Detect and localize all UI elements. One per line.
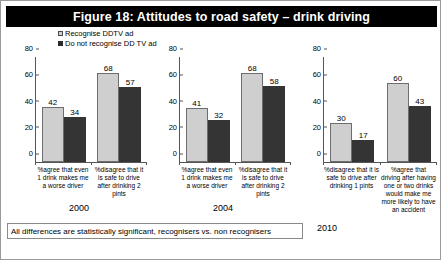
bar-value-label: 58 xyxy=(270,77,279,86)
plot-area: 80 60 40 20 0 41 32 xyxy=(179,57,291,163)
bar-value-label: 34 xyxy=(70,108,79,117)
bar-value-label: 68 xyxy=(104,64,113,73)
bar-value-label: 57 xyxy=(126,78,135,87)
category-label: %agree that even 1 drink makes me a wors… xyxy=(179,166,235,198)
panel-year-2000: 2000 xyxy=(9,203,149,213)
figure-footnote: All differences are statistically signif… xyxy=(7,223,303,239)
bar-group: 42 34 xyxy=(36,57,92,162)
x-axis-labels: %agree that even 1 drink makes me a wors… xyxy=(35,166,147,198)
figure-container: Figure 18: Attitudes to road safety – dr… xyxy=(0,0,441,260)
bar-not-recognise: 32 xyxy=(208,120,230,162)
bar-recognise: 60 xyxy=(387,83,409,162)
bar-value-label: 42 xyxy=(48,98,57,107)
y-axis-tick: 0 xyxy=(317,149,324,158)
chart-panel-2010: 80 60 40 20 0 30 17 xyxy=(297,51,439,201)
light-square-swatch-icon xyxy=(58,31,63,36)
x-axis-labels: %agree that even 1 drink makes me a wors… xyxy=(179,166,291,198)
legend-item-recognise: Recognise DDTV ad xyxy=(58,29,157,38)
bar-not-recognise: 43 xyxy=(409,106,431,162)
figure-title-bar: Figure 18: Attitudes to road safety – dr… xyxy=(6,6,437,27)
panel-year-2004: 2004 xyxy=(153,203,293,213)
y-axis-tick: 0 xyxy=(29,149,36,158)
bar-recognise: 30 xyxy=(330,123,352,162)
y-axis-tick: 80 xyxy=(169,44,180,53)
bar-group: 68 57 xyxy=(92,57,148,162)
bar-groups: 41 32 68 58 xyxy=(180,57,291,162)
bar-recognise: 68 xyxy=(97,73,119,162)
panel-year-2010: 2010 xyxy=(297,223,357,233)
footnote-text: All differences are statistically signif… xyxy=(8,227,271,236)
bar-value-label: 32 xyxy=(214,111,223,120)
bar-group: 41 32 xyxy=(180,57,236,162)
y-axis-tick: 20 xyxy=(25,122,36,131)
x-axis-ticks xyxy=(323,162,437,165)
page-title: Figure 18: Attitudes to road safety – dr… xyxy=(73,10,370,24)
y-axis-tick: 60 xyxy=(313,70,324,79)
bar-group: 30 17 xyxy=(324,57,381,162)
y-axis-tick: 40 xyxy=(169,96,180,105)
category-label: %agree that even 1 drink makes me a wors… xyxy=(35,166,91,198)
x-axis-ticks xyxy=(35,162,147,165)
bar-value-label: 60 xyxy=(393,74,402,83)
bar-not-recognise: 58 xyxy=(263,86,285,162)
legend-item-label: Do not recognise DD TV ad xyxy=(65,39,157,48)
bar-group: 60 43 xyxy=(381,57,438,162)
plot-area: 80 60 40 20 0 42 34 xyxy=(35,57,147,163)
bar-value-label: 17 xyxy=(359,131,368,140)
y-axis-tick: 60 xyxy=(169,70,180,79)
x-axis-labels: %disagree that it is safe to drive after… xyxy=(323,166,437,214)
y-axis-tick: 80 xyxy=(25,44,36,53)
bar-group: 68 58 xyxy=(236,57,292,162)
bar-groups: 42 34 68 57 xyxy=(36,57,147,162)
chart-legend: Recognise DDTV ad Do not recognise DD TV… xyxy=(58,29,157,49)
category-label: %disagree that it is safe to drive after… xyxy=(323,166,380,214)
chart-panels: 80 60 40 20 0 42 34 xyxy=(1,51,441,201)
bar-groups: 30 17 60 43 xyxy=(324,57,437,162)
category-label: %disagree that it is safe to drive after… xyxy=(91,166,147,198)
bar-recognise: 42 xyxy=(42,107,64,162)
bar-recognise: 41 xyxy=(186,108,208,162)
x-axis-ticks xyxy=(179,162,291,165)
bar-value-label: 41 xyxy=(192,99,201,108)
y-axis-tick: 60 xyxy=(25,70,36,79)
y-axis-tick: 80 xyxy=(313,44,324,53)
y-axis-tick: 0 xyxy=(173,149,180,158)
y-axis-tick: 40 xyxy=(313,96,324,105)
bar-not-recognise: 57 xyxy=(119,87,141,162)
y-axis-tick: 20 xyxy=(169,122,180,131)
chart-panel-2000: 80 60 40 20 0 42 34 xyxy=(9,51,149,201)
bar-value-label: 68 xyxy=(248,64,257,73)
category-label: %disagree that it is safe to drive after… xyxy=(235,166,291,198)
legend-item-not-recognise: Do not recognise DD TV ad xyxy=(58,39,157,48)
category-label: %agree that driving after having one or … xyxy=(380,166,437,214)
legend-item-label: Recognise DDTV ad xyxy=(65,29,133,38)
chart-panel-2004: 80 60 40 20 0 41 32 xyxy=(153,51,293,201)
plot-area: 80 60 40 20 0 30 17 xyxy=(323,57,437,163)
bar-recognise: 68 xyxy=(241,73,263,162)
y-axis-tick: 20 xyxy=(313,122,324,131)
bar-not-recognise: 34 xyxy=(64,117,86,162)
y-axis-tick: 40 xyxy=(25,96,36,105)
bar-not-recognise: 17 xyxy=(352,140,374,162)
bar-value-label: 43 xyxy=(415,97,424,106)
bar-value-label: 30 xyxy=(337,114,346,123)
dark-square-swatch-icon xyxy=(58,41,63,46)
